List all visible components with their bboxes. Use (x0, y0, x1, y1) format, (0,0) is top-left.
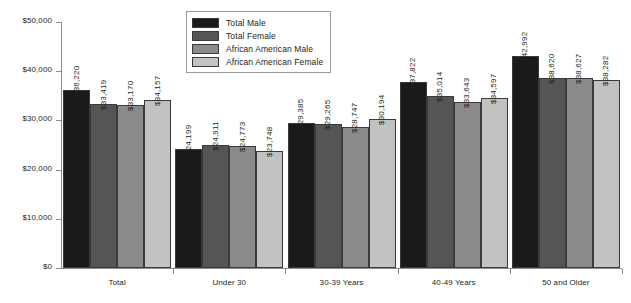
legend-item-3: African American Male (192, 42, 323, 55)
legend-swatch-icon (192, 44, 219, 54)
bar-1-3 (117, 105, 144, 268)
legend-item-4: African American Female (192, 55, 323, 68)
bar-4-1 (400, 82, 427, 268)
x-axis-category-label: Under 30 (173, 278, 285, 287)
bar-1-2 (90, 104, 117, 268)
legend-swatch-icon (192, 18, 219, 28)
bar-value-label: $38,627 (574, 54, 583, 84)
bar-value-label: $33,419 (99, 80, 108, 110)
y-axis-tick-label: $20,000 (0, 164, 52, 173)
x-axis-tick (173, 269, 174, 274)
bar-3-1 (288, 123, 315, 268)
legend-item-label: Total Male (226, 18, 266, 28)
bar-3-2 (315, 124, 342, 268)
bar-value-label: $24,199 (184, 125, 193, 155)
legend-swatch-icon (192, 31, 219, 41)
bar-value-label: $34,597 (489, 74, 498, 104)
x-axis-tick (398, 269, 399, 274)
y-axis-tick (56, 268, 61, 269)
y-axis-tick-label: $50,000 (0, 16, 52, 25)
bar-value-label: $33,643 (462, 78, 471, 108)
bar-value-label: $37,822 (408, 58, 417, 88)
x-axis-category-label: 40-49 Years (398, 278, 510, 287)
bar-value-label: $34,157 (153, 76, 162, 106)
x-axis-line (61, 268, 622, 269)
x-axis-tick (285, 269, 286, 274)
bar-value-label: $24,911 (211, 121, 220, 151)
bar-3-4 (369, 119, 396, 268)
y-axis-tick-label: $0 (0, 262, 52, 271)
bar-value-label: $24,773 (238, 122, 247, 152)
y-axis-tick (56, 22, 61, 23)
y-axis-tick-label: $10,000 (0, 213, 52, 222)
legend-item-label: Total Female (226, 31, 276, 41)
chart-legend: Total MaleTotal FemaleAfrican American M… (186, 11, 331, 73)
bar-value-label: $38,620 (547, 54, 556, 84)
bar-chart: $0$10,000$20,000$30,000$40,000$50,000Tot… (0, 0, 631, 303)
bar-4-3 (454, 102, 481, 268)
bar-value-label: $33,170 (126, 81, 135, 111)
legend-swatch-icon (192, 57, 219, 67)
bar-value-label: $38,282 (601, 56, 610, 86)
bar-value-label: $42,992 (520, 32, 529, 62)
bar-value-label: $35,014 (435, 72, 444, 102)
bar-5-2 (539, 78, 566, 268)
x-axis-category-label: 30-39 Years (285, 278, 397, 287)
x-axis-category-label: 50 and Older (510, 278, 622, 287)
bar-value-label: $29,385 (296, 99, 305, 129)
bar-2-4 (256, 151, 283, 268)
bar-4-4 (481, 98, 508, 268)
bar-value-label: $29,265 (323, 100, 332, 130)
bar-1-1 (63, 90, 90, 268)
y-axis-tick (56, 170, 61, 171)
legend-item-label: African American Male (226, 44, 313, 54)
legend-item-label: African American Female (226, 57, 323, 67)
y-axis-tick-label: $40,000 (0, 65, 52, 74)
bar-3-3 (342, 127, 369, 268)
bar-4-2 (427, 96, 454, 268)
y-axis-line (61, 22, 62, 268)
bar-2-1 (175, 149, 202, 268)
bar-5-4 (593, 80, 620, 268)
legend-item-1: Total Male (192, 16, 323, 29)
x-axis-tick (510, 269, 511, 274)
bar-value-label: $23,748 (265, 127, 274, 157)
bar-value-label: $36,220 (72, 66, 81, 96)
y-axis-tick (56, 71, 61, 72)
bar-5-3 (566, 78, 593, 268)
bar-value-label: $28,747 (350, 103, 359, 133)
bar-2-2 (202, 145, 229, 268)
bar-value-label: $30,194 (377, 95, 386, 125)
y-axis-tick (56, 120, 61, 121)
y-axis-tick (56, 219, 61, 220)
legend-item-2: Total Female (192, 29, 323, 42)
x-axis-category-label: Total (61, 278, 173, 287)
y-axis-tick-label: $30,000 (0, 114, 52, 123)
bar-1-4 (144, 100, 171, 268)
bar-5-1 (512, 56, 539, 268)
bar-2-3 (229, 146, 256, 268)
x-axis-tick (622, 269, 623, 274)
